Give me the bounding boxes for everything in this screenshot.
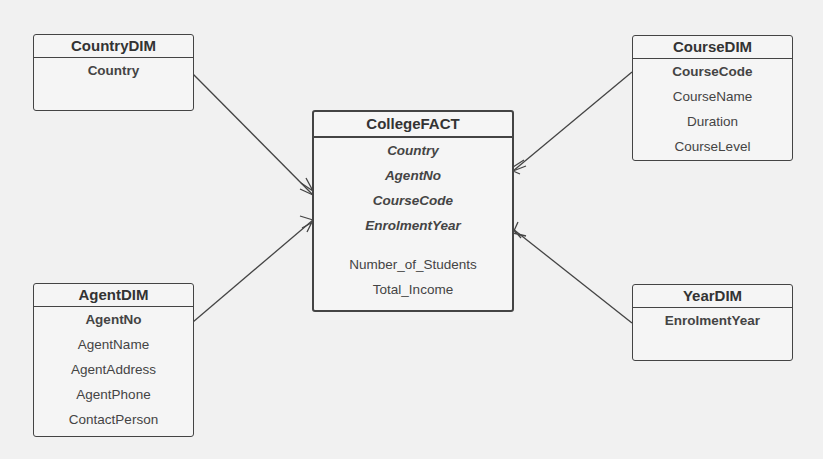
relationship-country-fact [193, 74, 313, 195]
entity-yeardim[interactable]: YearDIM EnrolmentYear [632, 284, 793, 361]
foreign-key-field: CourseCode [314, 188, 512, 213]
primary-key-field: AgentNo [34, 307, 193, 332]
entity-coursedim[interactable]: CourseDIM CourseCode CourseName Duration… [632, 35, 793, 161]
primary-key-field: Country [34, 58, 193, 83]
attribute-field: ContactPerson [34, 407, 193, 432]
attribute-field: Duration [633, 109, 792, 134]
relationship-agent-fact [193, 220, 313, 322]
primary-key-field: CourseCode [633, 59, 792, 84]
foreign-key-field: AgentNo [314, 163, 512, 188]
entity-title: YearDIM [633, 285, 792, 308]
entity-countrydim[interactable]: CountryDIM Country [33, 34, 194, 111]
foreign-key-field: Country [314, 138, 512, 163]
primary-key-field: EnrolmentYear [633, 308, 792, 333]
relationship-course-fact [513, 72, 632, 171]
measure-field: Total_Income [314, 277, 512, 302]
relationship-year-fact [513, 229, 632, 323]
attribute-field: AgentPhone [34, 382, 193, 407]
entity-agentdim[interactable]: AgentDIM AgentNo AgentName AgentAddress … [33, 283, 194, 437]
attribute-field: CourseLevel [633, 134, 792, 159]
entity-title: CollegeFACT [314, 112, 512, 138]
entity-title: CountryDIM [34, 35, 193, 58]
entity-collegefact[interactable]: CollegeFACT Country AgentNo CourseCode E… [312, 110, 514, 312]
attribute-field: AgentName [34, 332, 193, 357]
foreign-key-field: EnrolmentYear [314, 213, 512, 238]
attribute-field: AgentAddress [34, 357, 193, 382]
entity-title: AgentDIM [34, 284, 193, 307]
attribute-field: CourseName [633, 84, 792, 109]
spacer [314, 238, 512, 252]
crowfoot-icon [513, 222, 526, 238]
measure-field: Number_of_Students [314, 252, 512, 277]
entity-title: CourseDIM [633, 36, 792, 59]
